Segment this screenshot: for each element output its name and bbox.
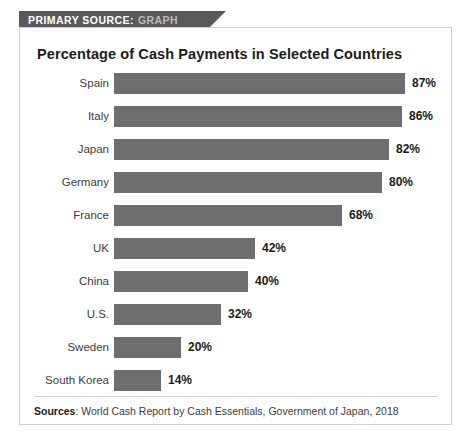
bar [114,304,221,325]
bar-value-label: 86% [409,106,433,127]
bar-row: Spain87% [20,73,451,94]
bar-category-label: South Korea [20,370,109,391]
bar-row: Sweden20% [20,337,451,358]
bar-category-label: Italy [20,106,109,127]
chart-title: Percentage of Cash Payments in Selected … [37,46,402,62]
bar [114,337,181,358]
bar [114,370,161,391]
bar-category-label: U.S. [20,304,109,325]
bar-category-label: Spain [20,73,109,94]
banner-label-primary-source: PRIMARY SOURCE: [28,14,134,26]
banner-label-graph: GRAPH [138,14,178,26]
bar [114,106,402,127]
bar-value-label: 87% [412,73,436,94]
bar [114,73,405,94]
bar-row: South Korea14% [20,370,451,391]
bar-row: Japan82% [20,139,451,160]
bar-row: Germany80% [20,172,451,193]
bar-row: Italy86% [20,106,451,127]
sources-text: World Cash Report by Cash Essentials, Go… [81,405,398,417]
bar-value-label: 32% [228,304,252,325]
bar-value-label: 40% [255,271,279,292]
bar-value-label: 14% [168,370,192,391]
bar [114,238,255,259]
bar-value-label: 42% [262,238,286,259]
bar-row: UK42% [20,238,451,259]
bar-value-label: 80% [389,172,413,193]
bar-value-label: 20% [188,337,212,358]
bar-chart-plot: Spain87%Italy86%Japan82%Germany80%France… [20,73,451,393]
bar-category-label: Sweden [20,337,109,358]
bar [114,139,389,160]
footer-divider [34,396,438,397]
sources-footnote: Sources: World Cash Report by Cash Essen… [34,405,399,417]
bar-row: China40% [20,271,451,292]
bar [114,205,342,226]
bar-category-label: Japan [20,139,109,160]
bar-value-label: 68% [349,205,373,226]
sources-label: Sources [34,405,75,417]
bar-category-label: France [20,205,109,226]
bar-row: France68% [20,205,451,226]
bar-value-label: 82% [396,139,420,160]
bar-category-label: UK [20,238,109,259]
bar-category-label: China [20,271,109,292]
bar-row: U.S.32% [20,304,451,325]
bar [114,271,248,292]
bar [114,172,382,193]
chart-card: Percentage of Cash Payments in Selected … [19,27,452,425]
bar-category-label: Germany [20,172,109,193]
